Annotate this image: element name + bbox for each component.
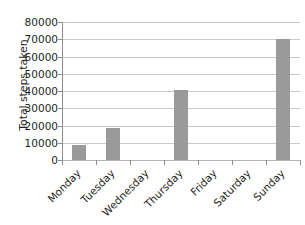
y-axis-line (62, 22, 63, 160)
y-axis-tick-mark (58, 126, 62, 127)
y-axis-tick-label: 80000 (16, 17, 58, 27)
gridline (62, 57, 300, 58)
bar (106, 128, 120, 160)
y-axis-tick-label: 20000 (16, 121, 58, 131)
gridline (62, 74, 300, 75)
y-axis-tick-label: 60000 (16, 52, 58, 62)
y-axis-tick-label: 10000 (16, 138, 58, 148)
gridline (62, 39, 300, 40)
y-axis-tick-label: 70000 (16, 34, 58, 44)
y-axis-tick-mark (58, 22, 62, 23)
y-axis-tick-labels: 0100002000030000400005000060000700008000… (16, 22, 58, 160)
y-axis-tick-mark (58, 57, 62, 58)
bar (72, 145, 86, 160)
gridline (62, 22, 300, 23)
y-axis-tick-mark (58, 91, 62, 92)
y-axis-tick-mark (58, 39, 62, 40)
bar-chart: Total steps taken 0100002000030000400005… (0, 0, 305, 225)
y-axis-tick-label: 50000 (16, 69, 58, 79)
bar (276, 39, 290, 160)
y-axis-tick-mark (58, 108, 62, 109)
y-axis-tick-mark (58, 74, 62, 75)
y-axis-tick-mark (58, 143, 62, 144)
plot-area (62, 22, 300, 160)
x-axis-tick-labels: MondayTuesdayWednesdayThursdayFridaySatu… (0, 160, 305, 225)
y-axis-tick-label: 30000 (16, 103, 58, 113)
bar (174, 90, 188, 160)
y-axis-tick-label: 40000 (16, 86, 58, 96)
